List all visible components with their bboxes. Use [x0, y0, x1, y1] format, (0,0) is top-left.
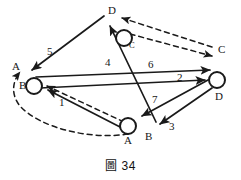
edge-label-4: 4 [105, 57, 111, 68]
edge-label-3: 3 [169, 121, 175, 132]
edge-label-1: 1 [59, 97, 65, 108]
figure-caption-symbol: 圖 [105, 159, 118, 173]
label-C-right: C [218, 44, 225, 55]
label-D-right: D [215, 91, 223, 102]
edge-dashed-top-to-right [130, 34, 212, 56]
edge-dashed-right-to-top [122, 18, 212, 47]
edge-label-2: 2 [177, 72, 183, 83]
edge-label-6: 6 [148, 59, 154, 70]
label-C-top: C [129, 41, 135, 50]
edge-label-5: 5 [47, 46, 53, 57]
edge-solid-left-to-right [36, 70, 210, 77]
label-B-left: B [19, 80, 26, 91]
label-A-left: A [12, 61, 20, 72]
node-left-B [26, 78, 42, 94]
graph-diagram [0, 0, 241, 180]
node-right-D [209, 72, 225, 88]
figure-34-container: A B D C C D A B 5 4 6 2 7 3 1 圖 34 [0, 0, 241, 180]
node-bottom-A [120, 118, 136, 134]
label-B-bottom: B [145, 131, 152, 142]
label-A-bottom: A [124, 135, 132, 146]
figure-caption: 圖 34 [0, 156, 241, 173]
label-D-top: D [108, 5, 116, 16]
edge-solid-top-to-left [32, 16, 104, 70]
edge-solid-right-to-lower [160, 88, 212, 124]
figure-caption-number: 34 [121, 159, 135, 173]
edge-label-7: 7 [152, 94, 158, 105]
